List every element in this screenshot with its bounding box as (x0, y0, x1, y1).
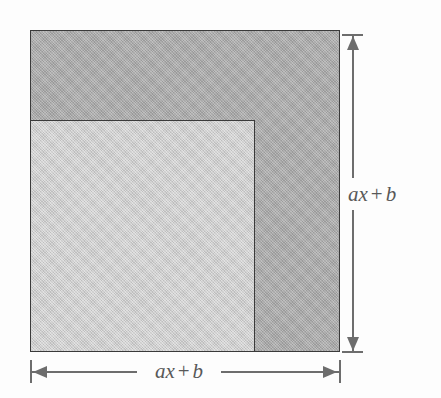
horizontal-dimension-arrow-right-icon (323, 366, 337, 378)
horizontal-dimension-label: ax+b (137, 358, 221, 384)
horizontal-label-term1-sub: x (165, 359, 174, 383)
horizontal-dimension-tick-right (339, 360, 341, 383)
figure-canvas: ax+b ax+b (0, 0, 441, 398)
vertical-label-term1: a (348, 182, 359, 206)
horizontal-label-term1: a (155, 359, 166, 383)
horizontal-label-term2: b (193, 359, 204, 383)
vertical-dimension-tick-bottom (342, 351, 363, 353)
horizontal-label-operator: + (175, 359, 193, 383)
vertical-dimension-arrow-up-icon (347, 36, 359, 50)
horizontal-dimension-line-right (219, 371, 339, 373)
inner-square-region (30, 120, 255, 352)
vertical-label-operator: + (368, 182, 386, 206)
vertical-dimension-label: ax+b (348, 178, 438, 210)
horizontal-dimension-line-left (31, 371, 139, 373)
vertical-label-term2: b (386, 182, 397, 206)
vertical-label-term1-sub: x (359, 182, 368, 206)
vertical-dimension-arrow-down-icon (347, 337, 359, 351)
horizontal-dimension-arrow-left-icon (33, 366, 47, 378)
